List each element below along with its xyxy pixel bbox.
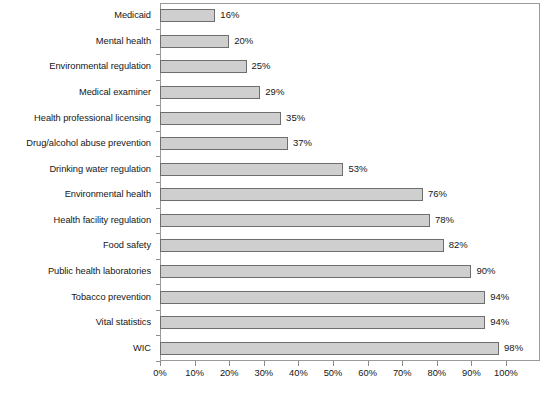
- bar-value-label: 16%: [220, 8, 239, 22]
- bar-value-label: 25%: [252, 59, 271, 73]
- bar: [160, 35, 229, 48]
- bar: [160, 239, 444, 252]
- x-axis-tick: [264, 361, 265, 366]
- category-axis: MedicaidMental healthEnvironmental regul…: [0, 3, 156, 361]
- x-axis-tick-label: 60%: [358, 368, 377, 379]
- category-label: Medicaid: [114, 10, 151, 21]
- bar-value-label: 53%: [348, 162, 367, 176]
- category-label: Drug/alcohol abuse prevention: [26, 138, 151, 149]
- bar: [160, 60, 247, 73]
- bar-row: 78%: [160, 214, 540, 227]
- category-label: Environmental health: [65, 189, 151, 200]
- x-axis-tick: [160, 361, 161, 366]
- bar: [160, 342, 499, 355]
- x-axis-tick: [402, 361, 403, 366]
- x-axis-tick-label: 40%: [289, 368, 308, 379]
- y-axis-tick: [156, 80, 160, 81]
- bar: [160, 265, 471, 278]
- x-axis-tick: [298, 361, 299, 366]
- bar-row: 37%: [160, 137, 540, 150]
- bar: [160, 112, 281, 125]
- bar: [160, 188, 423, 201]
- x-axis-tick-label: 100%: [494, 368, 518, 379]
- category-label: WIC: [133, 343, 151, 354]
- x-axis-tick-label: 0%: [153, 368, 166, 379]
- category-label: Drinking water regulation: [49, 164, 151, 175]
- bar: [160, 214, 430, 227]
- bar-row: 16%: [160, 9, 540, 22]
- y-axis-tick: [156, 310, 160, 311]
- bar-value-label: 94%: [490, 290, 509, 304]
- bar-row: 94%: [160, 316, 540, 329]
- bar-row: 29%: [160, 86, 540, 99]
- x-axis: 0%10%20%30%40%50%60%70%80%90%100%: [160, 361, 540, 395]
- y-axis-tick: [156, 105, 160, 106]
- bar: [160, 137, 288, 150]
- bar-row: 20%: [160, 35, 540, 48]
- bar-value-label: 76%: [428, 187, 447, 201]
- bar-value-label: 29%: [265, 85, 284, 99]
- y-axis-tick: [156, 54, 160, 55]
- bar-row: 94%: [160, 291, 540, 304]
- y-axis-tick: [156, 156, 160, 157]
- bar: [160, 291, 485, 304]
- bar: [160, 316, 485, 329]
- x-axis-tick: [195, 361, 196, 366]
- bar-value-label: 20%: [234, 34, 253, 48]
- y-axis-tick: [156, 29, 160, 30]
- bar-value-label: 98%: [504, 341, 523, 355]
- y-axis-tick: [156, 259, 160, 260]
- bar-row: 76%: [160, 188, 540, 201]
- y-axis-tick: [156, 335, 160, 336]
- category-label: Mental health: [96, 36, 151, 47]
- category-label: Public health laboratories: [48, 266, 151, 277]
- x-axis-tick: [333, 361, 334, 366]
- y-axis-tick: [156, 284, 160, 285]
- bar-value-label: 78%: [435, 213, 454, 227]
- bar-chart: MedicaidMental healthEnvironmental regul…: [0, 0, 550, 397]
- bar-value-label: 35%: [286, 111, 305, 125]
- category-label: Vital statistics: [96, 317, 151, 328]
- bars-layer: 16%20%25%29%35%37%53%76%78%82%90%94%94%9…: [160, 3, 540, 361]
- bar: [160, 163, 343, 176]
- bar: [160, 9, 215, 22]
- x-axis-tick: [368, 361, 369, 366]
- bar-value-label: 37%: [293, 136, 312, 150]
- y-axis-tick: [156, 182, 160, 183]
- category-label: Health professional licensing: [34, 113, 151, 124]
- y-axis-tick: [156, 208, 160, 209]
- x-axis-tick-label: 20%: [220, 368, 239, 379]
- category-label: Medical examiner: [79, 87, 151, 98]
- bar-row: 82%: [160, 239, 540, 252]
- x-axis-tick: [471, 361, 472, 366]
- x-axis-tick-label: 70%: [393, 368, 412, 379]
- bar-row: 98%: [160, 342, 540, 355]
- x-axis-tick-label: 30%: [254, 368, 273, 379]
- category-label: Environmental regulation: [49, 61, 151, 72]
- y-axis-tick: [156, 131, 160, 132]
- category-label: Food safety: [103, 240, 151, 251]
- bar-row: 53%: [160, 163, 540, 176]
- x-axis-tick-label: 10%: [185, 368, 204, 379]
- y-axis-tick: [156, 233, 160, 234]
- bar-row: 90%: [160, 265, 540, 278]
- x-axis-tick: [506, 361, 507, 366]
- bar-row: 35%: [160, 112, 540, 125]
- bar-value-label: 82%: [449, 238, 468, 252]
- x-axis-tick-label: 50%: [324, 368, 343, 379]
- bar-row: 25%: [160, 60, 540, 73]
- x-axis-tick: [229, 361, 230, 366]
- category-label: Health facility regulation: [54, 215, 151, 226]
- x-axis-tick-label: 80%: [427, 368, 446, 379]
- bar-value-label: 90%: [476, 264, 495, 278]
- x-axis-tick-label: 90%: [462, 368, 481, 379]
- bar-value-label: 94%: [490, 315, 509, 329]
- x-axis-tick: [437, 361, 438, 366]
- category-label: Tobacco prevention: [71, 292, 151, 303]
- bar: [160, 86, 260, 99]
